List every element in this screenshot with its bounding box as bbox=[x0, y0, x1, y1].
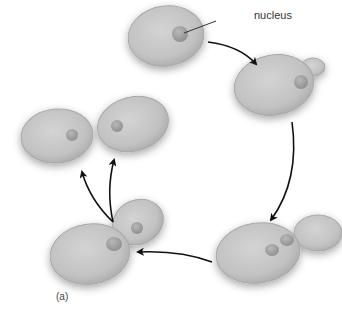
arrow-stage3-to-4 bbox=[138, 252, 212, 262]
nucleus-label: nucleus bbox=[254, 9, 292, 21]
arrow-stage1-to-2 bbox=[208, 42, 256, 64]
arrow-stage2-to-3 bbox=[271, 122, 294, 220]
arrow-stage4-to-5a bbox=[82, 172, 113, 222]
cell-stage-5 bbox=[19, 89, 175, 166]
cell-stage-4 bbox=[46, 191, 171, 289]
panel-label: (a) bbox=[56, 291, 68, 302]
cell-stage-2 bbox=[229, 49, 325, 122]
cell-stage-3 bbox=[212, 215, 342, 289]
budding-cycle-diagram bbox=[0, 0, 342, 318]
arrow-stage4-to-5b bbox=[110, 160, 114, 222]
cell-stage-1 bbox=[124, 1, 208, 71]
